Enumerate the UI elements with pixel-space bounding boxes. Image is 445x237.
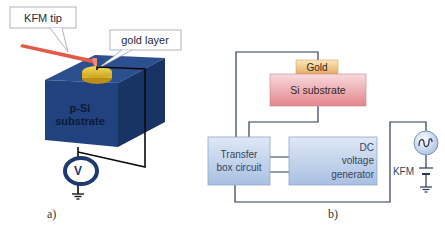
- substrate-label-line2: substrate: [55, 115, 105, 127]
- si-substrate-box: Si substrate: [270, 74, 366, 106]
- gold-label: Gold: [306, 62, 327, 73]
- transfer-box-circuit: Transfer box circuit: [208, 137, 270, 185]
- transfer-box-line2: box circuit: [216, 162, 261, 173]
- voltmeter-icon: V: [65, 158, 97, 184]
- panel-a: KFM tip gold layer p-Si substrate V: [10, 7, 181, 221]
- panel-b-caption: b): [328, 207, 338, 221]
- gold-box: Gold: [296, 60, 338, 74]
- dc-gen-line1: DC: [360, 142, 374, 153]
- transfer-box-line1: Transfer: [221, 149, 259, 160]
- gold-layer-callout-text: gold layer: [121, 34, 169, 46]
- kfm-tip-callout-text: KFM tip: [24, 12, 62, 24]
- si-substrate-label: Si substrate: [290, 84, 346, 96]
- ground-icon: [72, 194, 84, 199]
- dc-gen-line3: generator: [331, 169, 374, 180]
- wire-transfer-to-substrate: [249, 106, 318, 137]
- panel-b: Gold Si substrate Transfer box circuit D…: [208, 52, 438, 221]
- dc-gen-line2: voltage: [342, 155, 375, 166]
- dc-voltage-generator: DC voltage generator: [289, 137, 377, 185]
- ac-source-icon: [414, 131, 438, 155]
- substrate-label-line1: p-Si: [70, 102, 91, 114]
- battery-icon: [419, 168, 433, 174]
- kfm-tip-callout: KFM tip: [10, 7, 76, 52]
- diagram-canvas: KFM tip gold layer p-Si substrate V: [0, 0, 445, 237]
- voltmeter-label: V: [74, 164, 82, 178]
- kfm-label: KFM: [393, 166, 414, 177]
- ground-icon: [420, 187, 432, 192]
- panel-a-caption: a): [47, 207, 56, 221]
